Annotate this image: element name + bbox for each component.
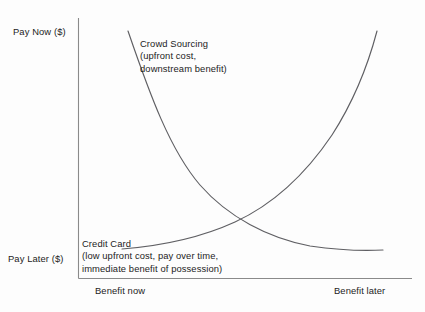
x-axis-right-label: Benefit later — [334, 285, 385, 297]
annotation-crowd-sourcing-line-2: (upfront cost, — [140, 50, 227, 62]
y-axis-bottom-label: Pay Later ($) — [8, 253, 64, 265]
annotation-credit-card-line-2: (low upfront cost, pay over time, — [82, 250, 222, 262]
annotation-crowd-sourcing-line-3: downstream benefit) — [140, 63, 227, 75]
annotation-credit-card-line-3: immediate benefit of possession) — [82, 263, 222, 275]
annotation-credit-card-line-1: Credit Card — [82, 238, 222, 250]
chart-figure: Pay Now ($) Pay Later ($) Benefit now Be… — [0, 0, 425, 312]
annotation-crowd-sourcing-line-1: Crowd Sourcing — [140, 38, 227, 50]
x-axis-left-label: Benefit now — [95, 285, 145, 297]
annotation-crowd-sourcing: Crowd Sourcing (upfront cost, downstream… — [140, 38, 227, 75]
y-axis-top-label: Pay Now ($) — [13, 26, 66, 38]
annotation-credit-card: Credit Card (low upfront cost, pay over … — [82, 238, 222, 275]
